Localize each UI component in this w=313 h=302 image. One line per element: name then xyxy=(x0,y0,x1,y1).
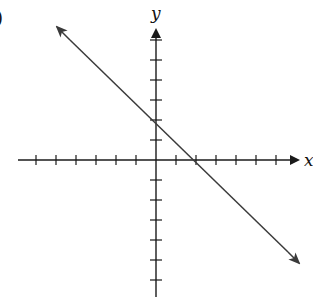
coordinate-plane: ) y x xyxy=(0,0,313,302)
x-axis-label: x xyxy=(304,150,313,170)
y-axis-label: y xyxy=(150,3,161,23)
line-arrow-lower-right-icon xyxy=(288,252,299,263)
panel-label: ) xyxy=(0,7,3,28)
line-arrow-upper-left-icon xyxy=(57,27,70,40)
graph-line xyxy=(70,40,288,252)
